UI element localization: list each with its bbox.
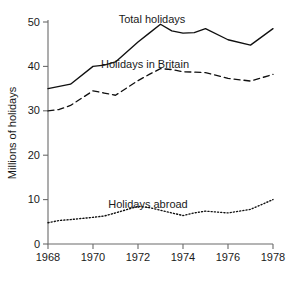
y-tick-labels: 0 10 20 30 40 50 [28,16,40,250]
series-line-total-holidays [48,24,273,88]
y-tick-label-0: 0 [34,238,40,250]
series-annotation-holidays-in-britain: Holidays in Britain [101,58,189,70]
y-tick-label-20: 20 [28,149,40,161]
x-tick-label-1978: 1978 [261,251,285,263]
x-tick-label-1976: 1976 [216,251,240,263]
chart-canvas: 0 10 20 30 40 50 1968 1970 1972 1974 197… [0,0,297,281]
x-tick-label-1974: 1974 [171,251,195,263]
y-tick-marks [43,22,48,244]
series-annotation-total-holidays: Total holidays [119,13,186,25]
y-tick-label-10: 10 [28,193,40,205]
holidays-line-chart: 0 10 20 30 40 50 1968 1970 1972 1974 197… [0,0,297,281]
x-tick-marks [48,244,273,249]
x-tick-label-1970: 1970 [81,251,105,263]
y-tick-label-30: 30 [28,104,40,116]
x-tick-label-1972: 1972 [126,251,150,263]
series-annotation-holidays-abroad: Holidays abroad [108,198,188,210]
x-tick-label-1968: 1968 [36,251,60,263]
y-tick-label-50: 50 [28,16,40,28]
y-axis-title: Millions of holidays [6,86,18,179]
y-tick-label-40: 40 [28,60,40,72]
x-tick-labels: 1968 1970 1972 1974 1976 1978 [36,251,285,263]
